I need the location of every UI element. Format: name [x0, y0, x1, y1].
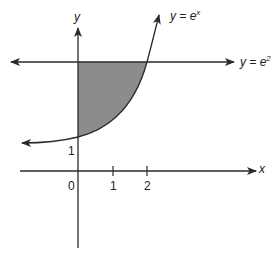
horizontal-label-exponent: 2 — [266, 54, 270, 63]
x-axis-label: x — [259, 163, 265, 175]
y-axis-label: y — [74, 11, 80, 23]
x-tick-label-2: 2 — [144, 180, 151, 192]
horizontal-label-base: y = e — [240, 55, 266, 69]
shaded-region — [78, 62, 147, 137]
exponential-label-base: y = e — [170, 9, 196, 23]
origin-label: 0 — [68, 180, 75, 192]
exponential-label-exponent: x — [196, 8, 200, 17]
exponential-curve-left — [22, 137, 78, 143]
graph-canvas — [0, 0, 275, 254]
x-tick-label-1: 1 — [110, 180, 117, 192]
horizontal-line-label: y = e2 — [240, 56, 271, 68]
y-tick-label-1: 1 — [68, 145, 75, 157]
graph-figure: y x 0 1 2 1 y = ex y = e2 — [0, 0, 275, 254]
exponential-curve-label: y = ex — [170, 10, 200, 22]
